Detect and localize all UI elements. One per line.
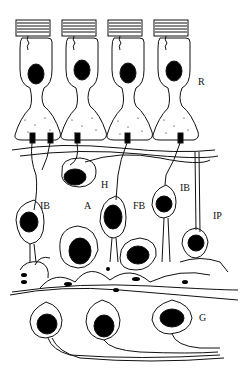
inner-plexiform-layer: [10, 257, 238, 300]
label-IP: IP: [213, 211, 222, 221]
ganglion-cells: [30, 300, 224, 361]
label-FB: FB: [133, 201, 145, 211]
label-IB-right: IB: [180, 183, 190, 193]
label-IB-left: IB: [40, 201, 50, 211]
photoreceptor-layer: [15, 20, 199, 143]
horizontal-cell: [62, 158, 96, 187]
label-H: H: [101, 180, 108, 190]
amacrine-cells: [60, 226, 156, 270]
label-R: R: [198, 77, 205, 87]
label-A: A: [84, 201, 91, 211]
retina-drawing: [0, 0, 250, 387]
retina-diagram: R H IB A FB IB IP G: [0, 0, 250, 387]
label-G: G: [199, 313, 206, 323]
bipolar-cells: [16, 185, 208, 262]
